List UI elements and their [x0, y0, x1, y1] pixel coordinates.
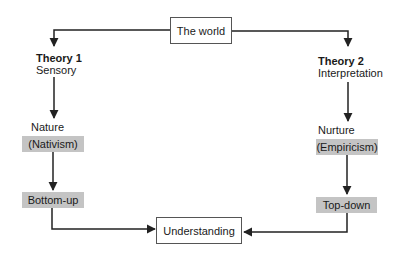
- understanding-node-label: Understanding: [163, 225, 235, 237]
- top-down-label: Top-down: [323, 199, 371, 211]
- world-node: The world: [170, 17, 232, 44]
- bottom-up-box: Bottom-up: [22, 192, 84, 208]
- top-down-box: Top-down: [316, 197, 377, 213]
- world-node-label: The world: [177, 25, 225, 37]
- theory-2-title: Theory 2: [318, 55, 364, 67]
- bottom-up-label: Bottom-up: [28, 194, 79, 206]
- theory-1-subtitle: Sensory: [36, 64, 76, 76]
- empiricism-box: (Empiricism): [316, 139, 378, 155]
- understanding-node: Understanding: [156, 217, 242, 244]
- theory-1-title: Theory 1: [36, 52, 82, 64]
- theory-2-subtitle: Interpretation: [318, 67, 383, 79]
- nativism-label: (Nativism): [28, 138, 78, 150]
- nature-label: Nature: [31, 121, 64, 133]
- empiricism-label: (Empiricism): [316, 141, 377, 153]
- nativism-box: (Nativism): [22, 136, 84, 152]
- nurture-label: Nurture: [318, 124, 355, 136]
